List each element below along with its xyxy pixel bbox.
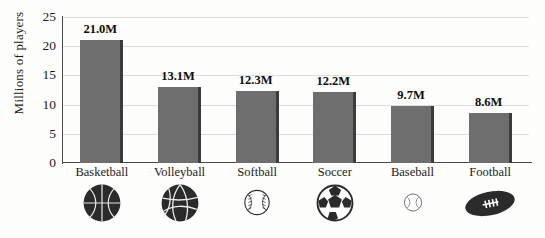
bar-value-label: 9.7M xyxy=(397,88,424,103)
football-icon xyxy=(463,188,517,223)
volleyball-icon xyxy=(160,183,200,227)
bar-slot: 13.1M xyxy=(141,17,219,163)
bar-soccer[interactable]: 12.2M xyxy=(313,92,356,163)
category-label-soccer: Soccer xyxy=(318,165,352,180)
bar-value-label: 12.3M xyxy=(239,73,273,88)
y-tick-label: 5 xyxy=(10,126,56,142)
category-label-basketball: Basketball xyxy=(75,165,128,180)
y-tick-label: 0 xyxy=(10,155,56,171)
bar-basketball[interactable]: 21.0M xyxy=(80,40,123,163)
bar-value-label: 13.1M xyxy=(161,69,195,84)
bar-slot: 8.6M xyxy=(451,17,529,163)
bar-value-label: 12.2M xyxy=(316,74,350,89)
bar-value-label: 8.6M xyxy=(475,95,502,110)
y-tick-label: 10 xyxy=(10,97,56,113)
bar-slot: 12.3M xyxy=(218,17,296,163)
category-label-softball: Softball xyxy=(237,165,277,180)
y-tick-label: 15 xyxy=(10,67,56,83)
bar-football[interactable]: 8.6M xyxy=(469,113,512,163)
basketball-icon xyxy=(82,183,122,227)
bar-baseball[interactable]: 9.7M xyxy=(391,106,434,163)
soccer-ball-icon xyxy=(316,184,354,226)
bar-value-label: 21.0M xyxy=(83,22,117,37)
category-label-volleyball: Volleyball xyxy=(154,165,205,180)
bar-slot: 12.2M xyxy=(296,17,374,163)
category-label-football: Football xyxy=(469,165,511,180)
bar-volleyball[interactable]: 13.1M xyxy=(158,87,201,164)
softball-icon xyxy=(244,189,271,220)
y-tick-label: 20 xyxy=(10,38,56,54)
x-axis-category-labels: BasketballVolleyballSoftballSoccerBaseba… xyxy=(63,165,529,181)
y-tick-label: 25 xyxy=(10,9,56,25)
bar-softball[interactable]: 12.3M xyxy=(236,91,279,163)
bar-slot: 9.7M xyxy=(374,17,452,163)
sport-icon-row xyxy=(63,183,529,233)
category-label-baseball: Baseball xyxy=(391,165,434,180)
y-axis-tick-labels: 0510152025 xyxy=(8,17,56,163)
bar-slot: 21.0M xyxy=(63,17,141,163)
plot-area: 21.0M13.1M12.3M12.2M9.7M8.6M xyxy=(63,17,529,163)
bar-chart: Millions of players 0510152025 21.0M13.1… xyxy=(0,0,545,238)
baseball-icon xyxy=(403,193,422,216)
